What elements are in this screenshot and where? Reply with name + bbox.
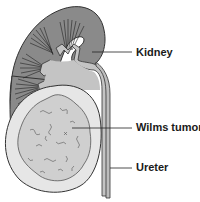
kidney-label: Kidney: [136, 47, 173, 58]
ureter-label: Ureter: [136, 162, 168, 173]
kidney-diagram: [0, 0, 200, 202]
wilms-tumor-label: Wilms tumor: [136, 122, 200, 133]
